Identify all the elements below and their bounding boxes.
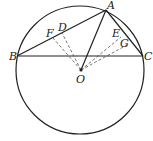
label-f: F bbox=[45, 27, 54, 40]
segment-od bbox=[62, 33, 81, 70]
geometry-diagram: A B C O D F E G bbox=[0, 0, 153, 141]
center-point-o bbox=[79, 68, 82, 71]
label-o: O bbox=[76, 73, 85, 86]
segment-ao bbox=[81, 10, 106, 70]
label-b: B bbox=[8, 50, 17, 63]
label-e: E bbox=[111, 27, 120, 40]
label-d: D bbox=[57, 21, 67, 34]
label-g: G bbox=[120, 37, 129, 50]
label-a: A bbox=[106, 0, 115, 12]
segment-oe bbox=[81, 37, 121, 70]
label-c: C bbox=[144, 50, 153, 63]
